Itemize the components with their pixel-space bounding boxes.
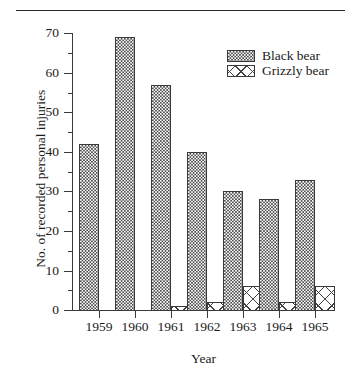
chart-legend: Black bear Grizzly bear: [227, 49, 329, 79]
legend-swatch-black-bear-icon: [227, 50, 255, 63]
y-tick-65: [68, 53, 73, 54]
y-tick-40: [64, 152, 73, 153]
legend-entry-grizzly-bear: Grizzly bear: [227, 64, 329, 78]
plot-area: 70 60 50 40 30 20 10 0: [0, 0, 362, 381]
bar-black-bear-1965: [295, 180, 315, 312]
legend-entry-black-bear: Black bear: [227, 49, 329, 63]
y-tick-0: [64, 310, 73, 311]
x-tick-1959: [99, 310, 100, 318]
legend-label-grizzly-bear: Grizzly bear: [262, 64, 329, 78]
x-tick-1962: [207, 310, 208, 318]
bar-black-bear-1962: [187, 152, 207, 311]
y-tick-5: [68, 290, 73, 291]
x-tick-1963: [243, 310, 244, 318]
bar-black-bear-1964: [259, 199, 279, 311]
x-axis-title: Year: [72, 352, 335, 366]
y-axis-title: No. of recorded personal injuries: [34, 34, 48, 324]
bar-grizzly-bear-1965: [315, 286, 335, 311]
bar-black-bear-1959: [79, 144, 99, 311]
legend-swatch-grizzly-bear-icon: [227, 65, 255, 78]
y-tick-55: [68, 93, 73, 94]
y-tick-60: [64, 73, 73, 74]
y-tick-10: [64, 271, 73, 272]
bear-injuries-bar-chart-figure: 70 60 50 40 30 20 10 0: [0, 0, 362, 381]
y-tick-35: [68, 172, 73, 173]
y-tick-45: [68, 132, 73, 133]
x-tick-1961: [171, 310, 172, 318]
bar-black-bear-1960: [115, 37, 135, 311]
y-tick-70: [64, 33, 73, 34]
legend-label-black-bear: Black bear: [262, 49, 320, 63]
x-tick-label-1965: 1965: [292, 320, 338, 334]
x-tick-1960: [135, 310, 136, 318]
bar-black-bear-1963: [223, 191, 243, 311]
y-tick-50: [64, 112, 73, 113]
y-tick-20: [64, 231, 73, 232]
x-tick-1964: [279, 310, 280, 318]
y-tick-15: [68, 251, 73, 252]
y-tick-30: [64, 191, 73, 192]
bar-black-bear-1961: [151, 85, 171, 312]
y-tick-25: [68, 211, 73, 212]
x-tick-1965: [315, 310, 316, 318]
